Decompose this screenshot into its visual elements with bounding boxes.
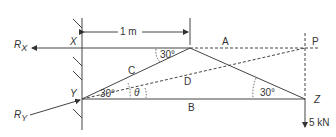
angle-z: 30° bbox=[260, 87, 275, 98]
d-label: D bbox=[184, 76, 191, 87]
truss-diagram: 1 m RX X A P C D B RY Y 30° 30° θ 30° Z … bbox=[0, 0, 336, 137]
wall bbox=[73, 18, 82, 130]
ry-arrow bbox=[30, 100, 80, 115]
z-label: Z bbox=[313, 94, 321, 105]
member-top-z bbox=[190, 48, 305, 99]
dimension-1m: 1 m bbox=[84, 18, 190, 45]
theta-label: θ bbox=[134, 87, 140, 98]
angle-y: 30° bbox=[100, 88, 115, 99]
angle-arc-theta bbox=[145, 88, 146, 98]
load-label: 5 kN bbox=[309, 117, 330, 128]
a-label: A bbox=[222, 36, 229, 47]
b-label: B bbox=[188, 102, 195, 113]
ry-label: RY bbox=[14, 109, 28, 123]
dimension-label: 1 m bbox=[120, 26, 137, 37]
angle-top: 30° bbox=[160, 49, 175, 60]
rx-label: RX bbox=[14, 39, 28, 53]
p-label: P bbox=[312, 36, 319, 47]
angle-arc-y bbox=[128, 83, 130, 98]
c-label: C bbox=[128, 65, 135, 76]
angle-arc-z bbox=[253, 78, 256, 98]
y-label: Y bbox=[70, 88, 78, 99]
x-label: X bbox=[69, 36, 77, 47]
